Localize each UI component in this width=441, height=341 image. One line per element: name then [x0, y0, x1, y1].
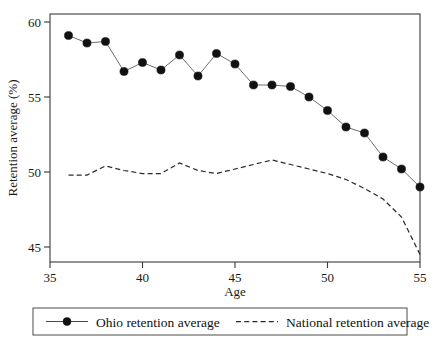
legend-item-ohio[interactable]: Ohio retention average [46, 315, 220, 330]
data-point [305, 93, 313, 101]
data-point [212, 49, 220, 57]
x-axis-ticks [50, 262, 420, 268]
data-point [138, 58, 146, 66]
line-chart: 60 55 50 45 35 40 45 50 55 Age Retention… [0, 0, 441, 341]
data-point [120, 67, 128, 75]
y-tick-label-45: 45 [28, 240, 41, 255]
legend-label-ohio: Ohio retention average [96, 315, 220, 330]
y-tick-label-50: 50 [28, 165, 41, 180]
x-tick-label-45: 45 [229, 270, 242, 285]
data-point [416, 183, 424, 191]
data-point [175, 51, 183, 59]
data-point [101, 37, 109, 45]
data-point [268, 81, 276, 89]
y-axis-ticks [44, 22, 50, 247]
data-point [360, 129, 368, 137]
data-point [249, 81, 257, 89]
x-tick-label-55: 55 [414, 270, 427, 285]
x-tick-label-35: 35 [44, 270, 57, 285]
y-tick-label-55: 55 [28, 90, 41, 105]
chart-figure: 60 55 50 45 35 40 45 50 55 Age Retention… [0, 0, 441, 341]
data-point [379, 153, 387, 161]
plot-area-frame [50, 14, 420, 262]
data-point [157, 66, 165, 74]
x-axis-title: Age [224, 284, 246, 299]
data-point [397, 165, 405, 173]
data-point [194, 72, 202, 80]
data-point [323, 106, 331, 114]
y-tick-label-60: 60 [28, 15, 41, 30]
data-point [64, 31, 72, 39]
legend-item-national[interactable]: National retention average [236, 315, 429, 330]
legend-marker-circle-icon [63, 318, 71, 326]
x-tick-label-50: 50 [321, 270, 334, 285]
data-point [83, 39, 91, 47]
data-point [286, 82, 294, 90]
legend-label-national: National retention average [286, 315, 429, 330]
data-point [342, 123, 350, 131]
y-axis-title: Retention average (%) [5, 80, 20, 197]
x-tick-label-40: 40 [136, 270, 149, 285]
data-point [231, 60, 239, 68]
